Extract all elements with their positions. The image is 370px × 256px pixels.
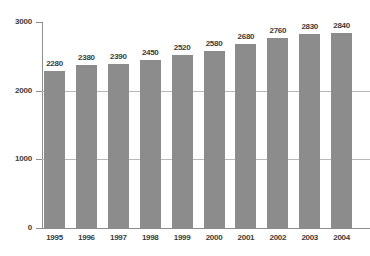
y-axis-label: 1000 — [15, 155, 32, 163]
bar — [331, 33, 352, 228]
bar — [44, 71, 65, 228]
bar-value-label: 2580 — [194, 40, 234, 48]
x-axis-label: 2004 — [322, 234, 362, 242]
bar — [172, 55, 193, 228]
x-axis-line — [42, 228, 370, 229]
y-axis-tick — [36, 228, 42, 229]
bar-value-label: 2840 — [322, 22, 362, 30]
y-axis-label: 0 — [28, 224, 32, 232]
bar-value-label: 2280 — [35, 60, 75, 68]
bar — [235, 44, 256, 228]
y-axis-label: 2000 — [15, 87, 32, 95]
y-axis-tick — [36, 22, 42, 23]
y-axis-tick — [36, 159, 42, 160]
y-axis-tick — [36, 91, 42, 92]
y-axis-label: 3000 — [15, 18, 32, 26]
bar — [108, 64, 129, 228]
bar — [267, 38, 288, 228]
bar — [204, 51, 225, 228]
bar — [299, 34, 320, 228]
bar — [76, 65, 97, 228]
bar — [140, 60, 161, 228]
